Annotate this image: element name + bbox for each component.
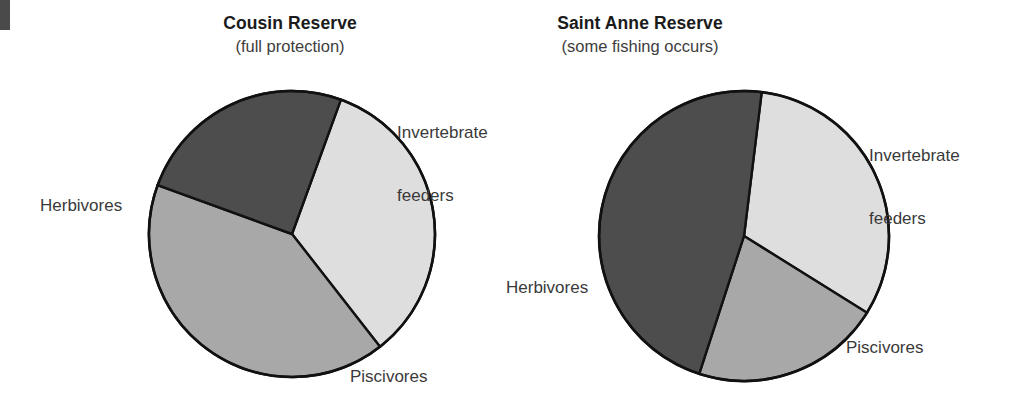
slice-label-piscivores-cousin: Piscivores <box>350 366 427 387</box>
chart-title-saint-anne: Saint Anne Reserve <box>420 13 860 33</box>
slice-label-invertebrate-feeders-saint-anne: Invertebrate feeders <box>869 103 960 271</box>
slice-label-invertebrate-line2: feeders <box>869 208 960 229</box>
pie-chart-cousin <box>146 88 438 380</box>
slice-label-invertebrate-line2: feeders <box>397 185 488 206</box>
chart-panel-cousin: Cousin Reserve (full protection) Herbivo… <box>0 0 507 404</box>
chart-subtitle-saint-anne: (some fishing occurs) <box>420 36 860 56</box>
slice-label-piscivores-saint-anne: Piscivores <box>846 337 923 358</box>
figure-canvas: Cousin Reserve (full protection) Herbivo… <box>0 0 1014 404</box>
slice-label-herbivores-cousin: Herbivores <box>40 195 122 216</box>
slice-label-herbivores-saint-anne: Herbivores <box>506 277 588 298</box>
slice-label-invertebrate-line1: Invertebrate <box>397 122 488 143</box>
pie-svg-cousin <box>146 88 438 380</box>
slice-label-invertebrate-line1: Invertebrate <box>869 145 960 166</box>
slice-label-invertebrate-feeders-cousin: Invertebrate feeders <box>397 80 488 248</box>
